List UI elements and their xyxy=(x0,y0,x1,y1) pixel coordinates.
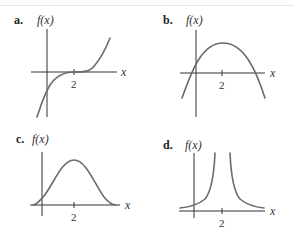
panel-d-tick-label: 2 xyxy=(219,217,225,229)
panel-b-xlabel: x xyxy=(269,66,276,80)
panel-c-curve xyxy=(33,160,116,205)
panel-c-label: c. xyxy=(16,132,24,146)
panel-b-label: b. xyxy=(163,13,173,27)
graphs-figure: a. f(x) 2 x b. f(x) 2 x c. f(x) 2 x d. f… xyxy=(0,0,294,235)
panel-b-tick-label: 2 xyxy=(219,79,225,91)
panel-c: c. f(x) 2 x xyxy=(16,132,131,223)
panel-c-xlabel: x xyxy=(124,198,131,212)
panel-d-xlabel: x xyxy=(269,204,276,218)
panel-d-ylabel: f(x) xyxy=(185,138,202,152)
panel-d: d. f(x) 2 x xyxy=(163,138,276,229)
panel-a-label: a. xyxy=(14,13,23,27)
panel-b: b. f(x) 2 x xyxy=(163,13,276,117)
panel-a: a. f(x) 2 x xyxy=(14,13,127,117)
panel-a-xlabel: x xyxy=(120,65,127,79)
panel-a-tick-label: 2 xyxy=(71,78,77,90)
panel-d-curve-left xyxy=(180,153,215,208)
panel-a-ylabel: f(x) xyxy=(37,13,54,27)
panel-c-ylabel: f(x) xyxy=(32,132,49,146)
panel-b-ylabel: f(x) xyxy=(186,13,203,27)
panel-d-curve-right xyxy=(230,153,264,208)
panel-d-label: d. xyxy=(163,138,173,152)
panel-c-tick-label: 2 xyxy=(71,211,77,223)
